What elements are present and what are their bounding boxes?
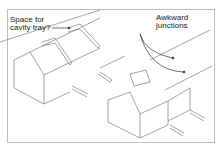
junction-arrowhead-1 bbox=[172, 57, 174, 59]
left-house-gable bbox=[14, 52, 44, 104]
junction-arrowhead-2 bbox=[183, 71, 185, 73]
annotation-arrows bbox=[52, 27, 185, 73]
right-house-extension bbox=[168, 88, 190, 121]
right-house bbox=[98, 30, 212, 138]
right-house-eaves bbox=[140, 101, 168, 114]
chimney-piece bbox=[98, 72, 112, 82]
right-house-step2 bbox=[170, 128, 183, 136]
cavity-tray-label: Space for cavity tray? bbox=[10, 16, 50, 32]
roof-line-right bbox=[150, 30, 210, 60]
junctions-label: Awkward junctions bbox=[156, 14, 188, 30]
extension-step2 bbox=[190, 113, 204, 121]
left-house-step2 bbox=[72, 89, 87, 97]
right-house-gable bbox=[108, 92, 140, 138]
left-house-eaves bbox=[44, 48, 100, 75]
junction-arrow-2 bbox=[140, 34, 183, 72]
left-house-base bbox=[44, 92, 70, 104]
wall-line bbox=[100, 56, 125, 68]
dormer-1 bbox=[42, 38, 72, 65]
dormer-2 bbox=[68, 24, 100, 48]
cavity-tray-label-line2: cavity tray? bbox=[10, 24, 50, 32]
dormer-3 bbox=[130, 70, 150, 86]
roof-line-right2 bbox=[165, 66, 212, 90]
right-house-base bbox=[140, 125, 168, 138]
cavity-tray-arrowhead bbox=[68, 27, 70, 29]
junctions-label-line2: junctions bbox=[156, 22, 188, 30]
